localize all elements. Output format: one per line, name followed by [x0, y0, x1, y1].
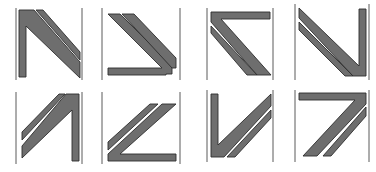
n-motif-icon: [14, 8, 84, 80]
seven-motif-icon: [293, 90, 363, 162]
reverse-n-motif-icon: [293, 4, 363, 76]
v-motif-icon: [205, 90, 275, 162]
z-motif-icon: [100, 8, 170, 80]
lambda-motif-icon: [14, 92, 84, 164]
tile-6: [100, 92, 170, 164]
tile-8: [293, 90, 363, 162]
tile-4: [293, 4, 363, 76]
tile-3: [205, 8, 275, 80]
tile-2: [100, 8, 170, 80]
reverse-z-motif-icon: [205, 8, 275, 80]
angle-motif-icon: [100, 92, 170, 164]
tile-1: [14, 8, 84, 80]
tile-7: [205, 90, 275, 162]
tile-5: [14, 92, 84, 164]
